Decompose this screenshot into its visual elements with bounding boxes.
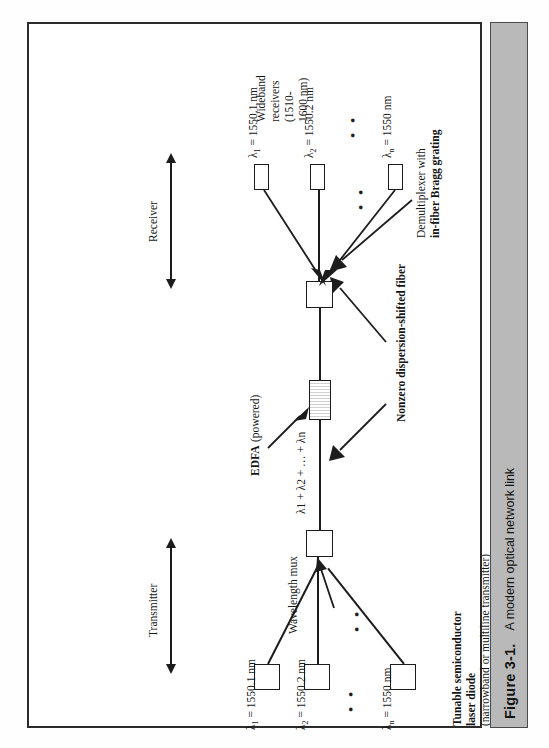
source-2-sub: 2: [301, 720, 310, 724]
detector-n-sub: n: [387, 148, 396, 152]
source-n-sub: n: [387, 720, 396, 724]
detector-label-ellipsis: • •: [346, 115, 361, 138]
source-1-label: λ1 = 1550.1 nm: [244, 659, 261, 730]
figure-caption-bar: Figure 3-1. A modern optical network lin…: [490, 22, 528, 728]
demux-caption-line1: Demultiplexer with: [414, 148, 428, 238]
detector-2-sub: 2: [309, 148, 318, 152]
figure-canvas: Transmitter • • λ1 = 1550.1 nm λ2: [58, 48, 509, 748]
receiver-note-line3: (1510-: [282, 91, 296, 122]
transmitter-span-arrow: [170, 547, 172, 665]
detector-1-lambda: λ: [247, 152, 259, 158]
detector-n-lambda: λ: [381, 152, 393, 158]
figure-caption-text: A modern optical network link: [503, 468, 517, 631]
figure-caption-inner: Figure 3-1. A modern optical network lin…: [491, 23, 528, 728]
detector-n-label: λn = 1550 nm: [380, 96, 397, 158]
wavelength-mux-label: Wavelength mux: [286, 556, 300, 634]
page-frame: Transmitter • • λ1 = 1550.1 nm λ2: [27, 22, 482, 728]
source-n-label: λn = 1550 nm: [380, 668, 397, 730]
transmitter-span-label: Transmitter: [146, 584, 160, 637]
source-2-value: = 1550.2 nm: [295, 659, 307, 718]
detector-1-sub: 1: [253, 148, 262, 152]
laser-diode-caption-line2: laser diode: [464, 673, 478, 726]
source-1-sub: 1: [251, 720, 260, 724]
receiver-note-line2: receivers: [268, 81, 282, 123]
edfa-pointer: [264, 390, 314, 450]
source-n-lambda: λ: [381, 724, 393, 730]
edfa-label-plain: (powered): [248, 395, 262, 442]
detector-link-ellipsis: • •: [354, 187, 369, 210]
figure-number: Figure 3-1.: [502, 643, 518, 719]
source-label-ellipsis: • •: [344, 689, 359, 712]
receiver-note-line4: 1600 nm): [296, 78, 310, 122]
source-ellipsis: • •: [350, 609, 365, 632]
scanned-book-page: Transmitter • • λ1 = 1550.1 nm λ2: [0, 0, 549, 748]
source-2-label: λ2 = 1550.2 nm: [294, 659, 311, 730]
edfa-label-bold-text: EDFA: [249, 446, 261, 476]
receiver-span-label: Receiver: [146, 201, 160, 242]
wavelength-mux-pointer: [310, 550, 340, 610]
source-1-lambda: λ: [245, 724, 257, 730]
edfa-label-bold: EDFA: [248, 446, 262, 476]
receiver-note-line1: Wideband: [254, 75, 268, 122]
figure-area: Transmitter • • λ1 = 1550.1 nm λ2: [58, 48, 509, 748]
detector-2-lambda: λ: [303, 152, 315, 158]
source-1-value: = 1550.1 nm: [245, 659, 257, 718]
source-n-value: = 1550 nm: [381, 668, 393, 718]
detector-n-value: = 1550 nm: [381, 96, 393, 146]
demux-caption-line2: in-fiber Bragg grating: [428, 130, 442, 238]
fiber-pointer-left: [324, 396, 394, 466]
receiver-span-arrow: [170, 162, 172, 280]
source-2-lambda: λ: [295, 724, 307, 730]
laser-diode-caption-line1: Tunable semiconductor: [450, 611, 464, 726]
